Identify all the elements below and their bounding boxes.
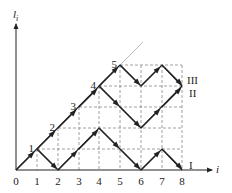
label-III: III bbox=[187, 74, 198, 86]
svg-text:2: 2 bbox=[55, 175, 61, 187]
svg-text:5: 5 bbox=[112, 58, 118, 70]
label-II: II bbox=[189, 87, 197, 99]
svg-text:3: 3 bbox=[71, 100, 77, 112]
label-I: I bbox=[189, 159, 193, 171]
diagonal-point-labels: 1 2 3 4 5 bbox=[29, 58, 118, 154]
x-tick-labels: 0 1 2 3 4 5 6 7 8 bbox=[13, 175, 185, 187]
svg-text:4: 4 bbox=[91, 79, 97, 91]
svg-text:2: 2 bbox=[50, 121, 56, 133]
svg-text:1: 1 bbox=[29, 142, 35, 154]
diagonal-extension bbox=[120, 42, 143, 65]
path-III bbox=[120, 65, 182, 86]
svg-text:0: 0 bbox=[13, 175, 19, 187]
svg-text:3: 3 bbox=[76, 175, 82, 187]
diagonal-line bbox=[16, 65, 120, 170]
svg-text:1: 1 bbox=[34, 175, 40, 187]
y-axis-label: li bbox=[13, 8, 18, 23]
lattice-path-diagram: li i 0 1 2 3 4 5 6 7 8 1 2 3 4 5 bbox=[0, 0, 232, 193]
svg-text:5: 5 bbox=[117, 175, 123, 187]
svg-text:4: 4 bbox=[96, 175, 102, 187]
path-labels: III II I bbox=[187, 74, 198, 171]
svg-text:7: 7 bbox=[159, 175, 165, 187]
x-axis-label: i bbox=[216, 163, 219, 175]
svg-text:6: 6 bbox=[138, 175, 144, 187]
dashed-grid bbox=[37, 65, 182, 170]
svg-text:8: 8 bbox=[179, 175, 185, 187]
